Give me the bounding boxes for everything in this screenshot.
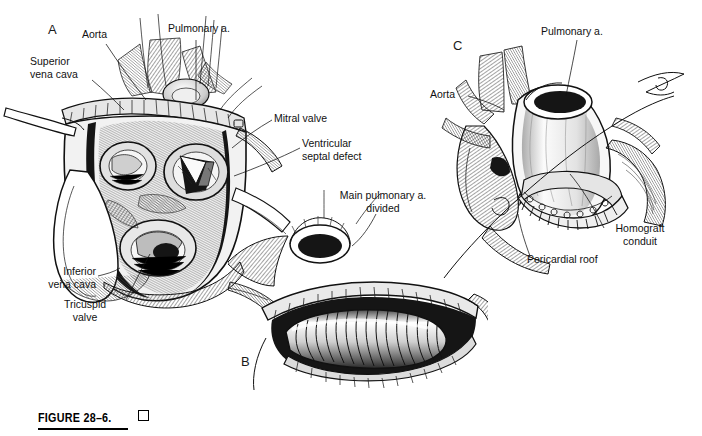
caption-square-icon [138,410,149,421]
leader-pericardial-roof [518,214,530,256]
label-aorta-a: Aorta [82,28,107,41]
label-pulmonary-artery-c: Pulmonary a. [541,25,603,38]
figure-caption-number: FIGURE 28–6. [38,411,112,425]
leader-pulmonary-artery-c [566,40,577,96]
label-inferior-vena-cava: Inferior vena cava [0,265,96,290]
leader-main-pulmonary-artery-divided [352,214,376,246]
leader-inferior-vena-cava [98,268,120,276]
leader-aorta-a [106,44,146,100]
label-aorta-c: Aorta [430,88,455,101]
label-pulmonary-artery-a: Pulmonary a. [168,22,230,35]
label-mitral-valve: Mitral valve [274,112,327,125]
panel-letter-b: B [241,354,250,369]
leader-mitral-valve [232,120,272,148]
label-pericardial-roof: Pericardial roof [527,253,598,266]
label-main-pulmonary-artery-divided: Main pulmonary a. divided [325,189,441,214]
caption-underline-rule [38,428,128,430]
panel-letter-c: C [453,38,463,53]
label-tricuspid-valve: Tricuspid valve [48,298,122,323]
leader-tricuspid-valve [126,254,150,300]
leader-homograft-conduit [570,174,604,228]
figure-caption: FIGURE 28–6. [38,408,238,426]
label-superior-vena-cava: Superior vena cava [30,55,78,80]
leader-lines [0,0,702,436]
panel-letter-a: A [48,22,57,37]
label-ventricular-septal-defect: Ventricular septal defect [302,137,362,162]
label-homograft-conduit: Homograft conduit [602,222,678,247]
leader-superior-vena-cava [92,80,124,110]
leader-aorta-c [468,96,504,110]
figure-page: A B C Aorta Pulmonary a. Superior vena c… [0,0,702,436]
leader-ventricular-septal-defect [234,148,300,176]
